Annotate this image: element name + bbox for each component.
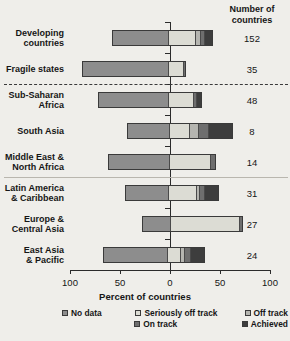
- bar-segment-seriously-off-track: [168, 93, 194, 107]
- legend-label-off-track: Off track: [254, 308, 288, 318]
- x-tick-label: 0: [150, 277, 190, 288]
- zero-axis-tick: [165, 53, 170, 54]
- bar-segment-seriously-off-track: [168, 186, 196, 200]
- x-tick-label: 50: [200, 277, 240, 288]
- chart-row: South Asia8: [0, 115, 290, 146]
- legend-row-1: No data Seriously off track Off track: [62, 307, 288, 318]
- zero-axis-tick: [165, 270, 170, 271]
- stacked-bar[interactable]: [103, 247, 205, 263]
- chart-row: Latin America & Caribbean31: [0, 177, 290, 208]
- legend-label-no-data: No data: [71, 308, 102, 318]
- bar-segment-seriously-off-track: [168, 31, 195, 45]
- legend-label-achieved: Achieved: [251, 319, 288, 329]
- bar-segment-on-track: [198, 124, 208, 138]
- bar-segment-seriously-off-track: [168, 62, 183, 76]
- bar-segment-seriously-off-track: [169, 155, 210, 169]
- x-tick-label: 100: [250, 277, 290, 288]
- bar-segment-no-data: [126, 186, 168, 200]
- x-tick-mark: [120, 270, 121, 274]
- legend: No data Seriously off track Off track On…: [62, 307, 288, 329]
- legend-swatch-icon-on-track: [134, 321, 140, 327]
- chart-row: Europe & Central Asia27: [0, 208, 290, 239]
- legend-label-on-track: On track: [143, 319, 177, 329]
- stacked-bar[interactable]: [108, 154, 216, 170]
- legend-swatch-icon-seriously-off-track: [135, 310, 141, 316]
- bar-segment-no-data: [104, 248, 167, 262]
- chart-row: Middle East & North Africa14: [0, 146, 290, 177]
- stacked-bar[interactable]: [98, 92, 202, 108]
- chart-row: East Asia & Pacific24: [0, 239, 290, 270]
- x-tick-label: 50: [100, 277, 140, 288]
- bar-segment-no-data: [143, 217, 170, 231]
- row-country-count: 24: [216, 249, 288, 260]
- bar-segment-on-track: [210, 155, 215, 169]
- legend-label-seriously-off-track: Seriously off track: [144, 308, 217, 318]
- zero-axis-tick: [165, 22, 170, 23]
- zero-axis-tick: [165, 239, 170, 240]
- x-tick-mark: [170, 270, 171, 274]
- bar-segment-no-data: [109, 155, 169, 169]
- x-tick-label: 100: [50, 277, 90, 288]
- fragile-states-separator: [4, 84, 288, 85]
- legend-item-no-data[interactable]: No data: [62, 308, 135, 318]
- bar-segment-achieved: [204, 31, 212, 45]
- chart-row: Fragile states35: [0, 53, 290, 84]
- row-country-count: 27: [216, 218, 288, 229]
- row-label: South Asia: [0, 125, 64, 136]
- stacked-bar[interactable]: [112, 30, 213, 46]
- row-label: Sub-Saharan Africa: [0, 89, 64, 110]
- legend-item-on-track[interactable]: On track: [134, 319, 241, 329]
- row-label: East Asia & Pacific: [0, 244, 64, 265]
- bar-segment-no-data: [128, 124, 169, 138]
- legend-item-achieved[interactable]: Achieved: [242, 319, 288, 329]
- chart-root: Number of countries Developing countries…: [0, 0, 290, 341]
- plot-area: Developing countries152Fragile states35S…: [0, 0, 290, 341]
- zero-axis-tick: [165, 115, 170, 116]
- row-country-count: 31: [216, 187, 288, 198]
- row-country-count: 35: [216, 63, 288, 74]
- x-axis-title: Percent of countries: [0, 291, 290, 302]
- row-label: Fragile states: [0, 63, 64, 74]
- row-label: Latin America & Caribbean: [0, 182, 64, 203]
- bar-rows: Developing countries152Fragile states35S…: [0, 22, 290, 270]
- legend-item-seriously-off-track[interactable]: Seriously off track: [135, 308, 244, 318]
- bar-segment-off-track: [189, 124, 198, 138]
- region-separator: [4, 177, 288, 178]
- row-label: Middle East & North Africa: [0, 151, 64, 172]
- x-tick-mark: [70, 270, 71, 274]
- row-label: Developing countries: [0, 27, 64, 48]
- row-country-count: 8: [216, 125, 288, 136]
- legend-item-off-track[interactable]: Off track: [245, 308, 288, 318]
- zero-axis-tick: [165, 146, 170, 147]
- x-tick-mark: [270, 270, 271, 274]
- row-country-count: 14: [216, 156, 288, 167]
- bar-segment-on-track: [183, 62, 185, 76]
- bar-segment-seriously-off-track: [169, 124, 190, 138]
- bar-segment-no-data: [99, 93, 168, 107]
- x-tick-mark: [220, 270, 221, 274]
- bar-segment-no-data: [83, 62, 168, 76]
- stacked-bar[interactable]: [125, 185, 219, 201]
- bar-segment-seriously-off-track: [167, 248, 180, 262]
- legend-swatch-icon-no-data: [62, 310, 68, 316]
- row-country-count: 48: [216, 94, 288, 105]
- chart-row: Developing countries152: [0, 22, 290, 53]
- bar-segment-achieved: [190, 248, 204, 262]
- zero-axis-tick: [165, 208, 170, 209]
- stacked-bar[interactable]: [82, 61, 186, 77]
- legend-swatch-icon-achieved: [242, 321, 248, 327]
- bar-segment-achieved: [196, 93, 201, 107]
- legend-row-2: On track Achieved: [62, 318, 288, 329]
- chart-row: Sub-Saharan Africa48: [0, 84, 290, 115]
- legend-swatch-icon-off-track: [245, 310, 251, 316]
- row-country-count: 152: [216, 32, 288, 43]
- bar-segment-no-data: [113, 31, 168, 45]
- row-label: Europe & Central Asia: [0, 213, 64, 234]
